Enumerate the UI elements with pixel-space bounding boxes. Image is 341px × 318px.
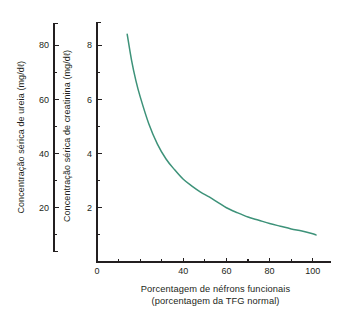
chart-figure: 20406080 Concentração sérica de ureia (m… [0,0,341,318]
urea-tick-label: 60 [39,95,49,105]
urea-tick-label: 80 [39,40,49,50]
urea-axis-title: Concentração sérica de ureia (mg/dℓ) [16,61,26,214]
creatinine-tick-label: 2 [87,203,92,213]
urea-tick-label: 20 [39,203,49,213]
urea-tick-label: 40 [39,149,49,159]
creatinine-tick-label: 8 [87,40,92,50]
x-tick-label: 40 [178,266,188,276]
x-tick-label: 100 [305,266,320,276]
creatinine-tick-label: 6 [87,95,92,105]
x-tick-label: 60 [221,266,231,276]
x-tick-label: 80 [265,266,275,276]
x-tick-label: 0 [94,266,99,276]
creatinine-tick-label: 4 [87,149,92,159]
x-axis-title-line2: (porcentagem da TFG normal) [151,296,279,306]
creatinine-axis-title: Concentração sérica de creatinina (mg/dℓ… [62,50,72,222]
nephron-function-chart: 20406080 Concentração sérica de ureia (m… [0,0,341,318]
x-axis-title-line1: Porcentagem de néfrons funcionais [141,284,291,294]
chart-background [0,0,341,318]
